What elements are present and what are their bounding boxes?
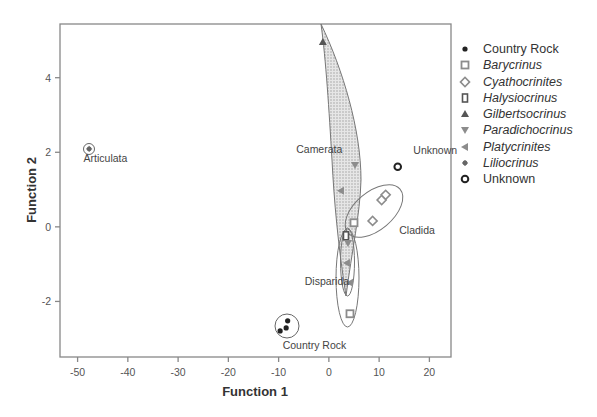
legend-label: Platycrinites — [483, 139, 550, 155]
y-tick-label: -2 — [42, 295, 51, 307]
square-marker-icon — [351, 219, 358, 226]
x-tick-label: -10 — [271, 366, 286, 378]
x-tick-label: -50 — [70, 366, 85, 378]
legend-symbol — [458, 91, 472, 105]
plot-area — [60, 24, 451, 357]
square-marker-icon — [346, 310, 353, 317]
triangle-up-marker-icon — [461, 110, 469, 117]
triangle-left-marker-icon — [461, 143, 468, 151]
plus-marker-icon — [462, 160, 468, 166]
group-label: Articulata — [84, 152, 128, 164]
legend-label: Barycrinus — [483, 57, 542, 73]
group-label: Camerata — [296, 143, 342, 155]
dot-marker-icon — [462, 46, 467, 51]
legend-label: Liliocrinus — [483, 155, 539, 171]
plot-border — [60, 24, 451, 357]
legend-label: Halysiocrinus — [483, 90, 557, 106]
group-label: Unknown — [413, 144, 457, 156]
square-marker-icon — [462, 62, 469, 69]
legend-symbol — [458, 172, 472, 186]
y-tick-label: 4 — [45, 72, 51, 84]
dot-marker-icon — [285, 318, 290, 323]
triangle-down-marker-icon — [461, 127, 469, 134]
legend-symbol — [458, 75, 472, 89]
legend-symbol — [458, 42, 472, 56]
bar-marker-icon — [463, 94, 468, 102]
legend-symbol — [458, 58, 472, 72]
x-axis-title: Function 1 — [222, 384, 288, 399]
y-tick-label: 0 — [45, 221, 51, 233]
bar-marker-icon — [343, 232, 348, 240]
dot-marker-icon — [284, 325, 289, 330]
y-tick-label: 2 — [45, 146, 51, 158]
diamond-marker-icon — [460, 77, 469, 86]
legend-symbol — [458, 140, 472, 154]
group-label: Country Rock — [283, 339, 347, 351]
x-tick-label: -20 — [221, 366, 236, 378]
y-axis-title: Function 2 — [24, 157, 39, 223]
legend-label: Unknown — [483, 171, 535, 187]
open-circle-marker-icon — [394, 164, 401, 171]
legend-label: Paradichocrinus — [483, 122, 573, 138]
x-tick-label: 20 — [424, 366, 436, 378]
legend-label: Cyathocrinites — [483, 74, 562, 90]
x-tick-label: -40 — [120, 366, 135, 378]
dot-marker-icon — [278, 328, 283, 333]
legend-label: Country Rock — [483, 41, 559, 57]
legend-label: Gilbertsocrinus — [483, 106, 566, 122]
group-label: Cladida — [399, 224, 435, 236]
legend-symbol — [458, 123, 472, 137]
x-tick-label: 0 — [326, 366, 332, 378]
open-circle-marker-icon — [462, 176, 469, 183]
legend-symbol — [458, 156, 472, 170]
legend-symbol — [458, 107, 472, 121]
x-tick-label: -30 — [171, 366, 186, 378]
x-tick-label: 10 — [373, 366, 385, 378]
group-label: Disparida — [305, 275, 350, 287]
